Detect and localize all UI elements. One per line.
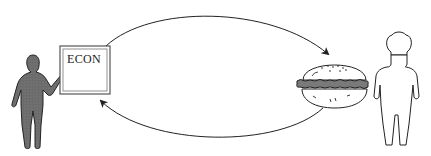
diagram-canvas bbox=[0, 0, 431, 156]
arrow-hamburger-to-board bbox=[101, 101, 323, 137]
teacher-figure bbox=[12, 55, 64, 149]
arrow-board-to-hamburger bbox=[106, 16, 328, 54]
board-label: ECON bbox=[67, 52, 101, 67]
hamburger-icon bbox=[297, 65, 368, 108]
chef-figure bbox=[374, 32, 419, 145]
